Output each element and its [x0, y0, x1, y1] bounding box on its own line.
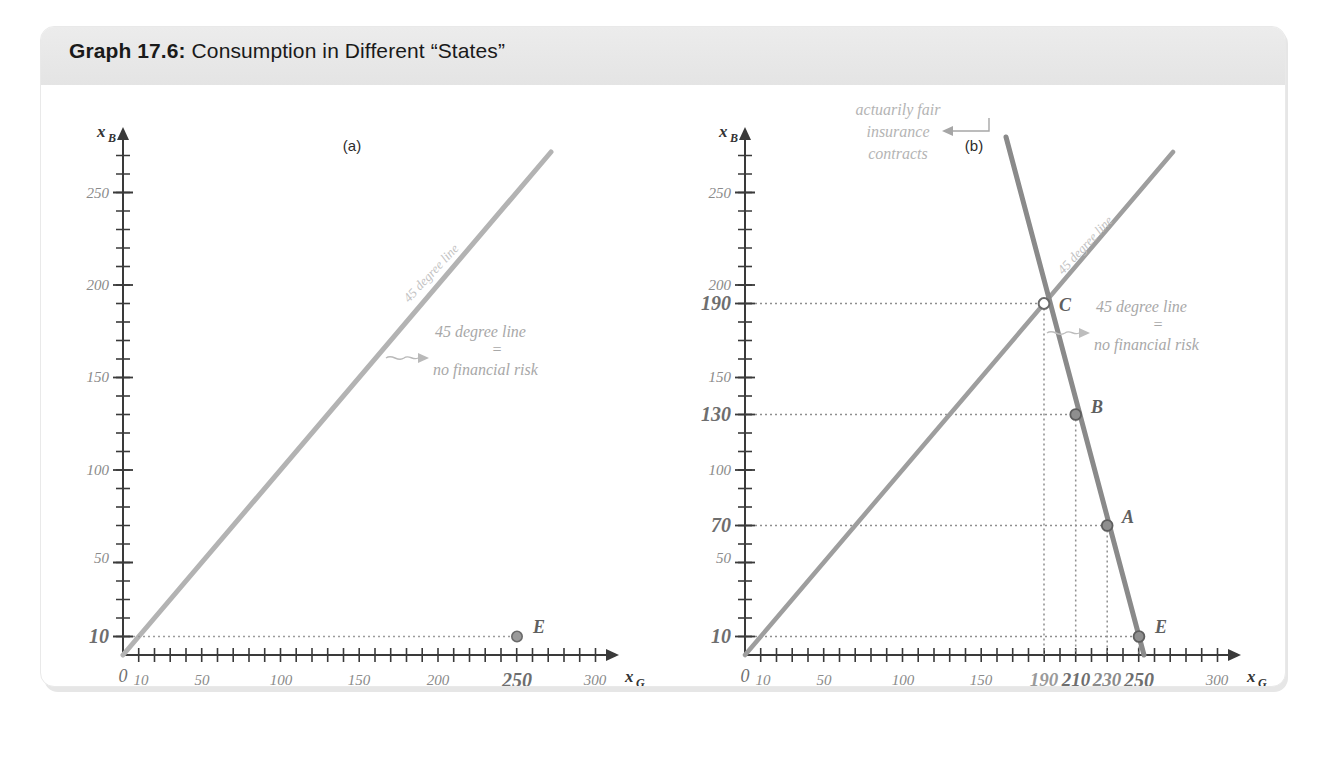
data-point-E-a: E — [512, 617, 545, 642]
y-axis-arrow — [739, 127, 751, 140]
axes-a — [117, 127, 619, 661]
annotation-arrow-b — [1047, 328, 1090, 338]
svg-text:190: 190 — [1030, 669, 1059, 687]
x-axis-arrow — [606, 649, 619, 661]
x-axis-arrow — [1228, 649, 1241, 661]
svg-text:150: 150 — [709, 369, 732, 385]
svg-text:A: A — [1121, 507, 1134, 527]
svg-text:200: 200 — [427, 672, 450, 687]
axes-b — [739, 127, 1241, 661]
y-axis-title-b: x B — [718, 122, 738, 145]
svg-text:130: 130 — [701, 403, 731, 425]
svg-text:10: 10 — [711, 625, 731, 647]
svg-text:210: 210 — [1061, 669, 1091, 687]
x-axis-title-b: x G — [1246, 667, 1267, 687]
svg-text:230: 230 — [1092, 669, 1122, 687]
svg-text:x: x — [624, 667, 634, 686]
panel-a: (a) — [41, 85, 663, 685]
svg-text:10: 10 — [756, 672, 772, 687]
svg-text:250: 250 — [709, 185, 732, 201]
svg-text:B: B — [107, 131, 116, 145]
svg-text:100: 100 — [892, 672, 915, 687]
panel-a-plot: 45 degree line 45 degree line = no finan… — [41, 85, 663, 685]
svg-text:0: 0 — [119, 666, 128, 686]
title-rest: Consumption in Different “States” — [192, 39, 505, 62]
svg-text:200: 200 — [87, 277, 110, 293]
anno-no-risk-b: no financial risk — [1094, 336, 1200, 354]
anno-equals-a: = — [492, 341, 503, 358]
svg-text:150: 150 — [348, 672, 371, 687]
svg-text:300: 300 — [1205, 672, 1229, 687]
svg-text:G: G — [1258, 676, 1267, 687]
x-tick-labels-a: 0 10 50 100 150 200 250 300 — [119, 666, 607, 687]
figure-card: Graph 17.6: Consumption in Different “St… — [40, 26, 1286, 687]
y-axis-title-a: x B — [96, 122, 116, 145]
svg-text:E: E — [1154, 617, 1167, 637]
y-tick-labels-a: 10 50 100 150 200 250 — [87, 185, 110, 647]
svg-text:G: G — [636, 676, 645, 687]
chart-b-svg: 45 degree line actuarily fair insurance … — [663, 85, 1285, 685]
svg-text:250: 250 — [501, 669, 532, 687]
annotation-arrow-a — [386, 353, 429, 363]
svg-text:100: 100 — [87, 462, 110, 478]
x-axis-title-a: x G — [624, 667, 645, 687]
rotated-45-degree-label-b: 45 degree line — [1054, 213, 1116, 277]
panel-b: (b) — [663, 85, 1285, 685]
svg-text:10: 10 — [89, 625, 109, 647]
chart-a-svg: 45 degree line 45 degree line = no finan… — [41, 85, 663, 685]
series-fair-insurance-line-b — [1006, 137, 1144, 655]
svg-text:200: 200 — [709, 277, 732, 293]
title-lead: Graph 17.6: — [69, 39, 186, 62]
svg-text:x: x — [96, 122, 106, 141]
anno-45-line-b: 45 degree line — [1096, 298, 1187, 316]
anno-45-line-a: 45 degree line — [435, 323, 526, 341]
svg-text:E: E — [532, 617, 545, 637]
svg-text:B: B — [729, 131, 738, 145]
anno-no-risk-a: no financial risk — [433, 361, 539, 379]
figure-root: Graph 17.6: Consumption in Different “St… — [0, 0, 1326, 781]
guides-b — [745, 304, 1139, 656]
svg-text:10: 10 — [134, 672, 150, 687]
anno-fair-2: insurance — [866, 123, 929, 140]
svg-text:B: B — [1090, 397, 1103, 417]
no-financial-risk-annotation-b: 45 degree line = no financial risk — [1094, 298, 1200, 354]
data-point-C-b: C — [1039, 295, 1072, 315]
anno-fair-3: contracts — [868, 145, 928, 162]
svg-text:50: 50 — [716, 550, 732, 566]
svg-text:300: 300 — [583, 672, 607, 687]
svg-text:190: 190 — [701, 292, 731, 314]
svg-text:150: 150 — [87, 369, 110, 385]
no-financial-risk-annotation-a: 45 degree line = no financial risk — [433, 323, 539, 379]
svg-text:250: 250 — [87, 185, 110, 201]
svg-text:50: 50 — [195, 672, 211, 687]
svg-text:100: 100 — [270, 672, 293, 687]
svg-text:0: 0 — [741, 666, 750, 686]
series-45-degree-line-a — [123, 152, 551, 655]
svg-text:100: 100 — [709, 462, 732, 478]
svg-text:x: x — [718, 122, 728, 141]
svg-text:x: x — [1246, 667, 1256, 686]
panel-b-plot: 45 degree line actuarily fair insurance … — [663, 85, 1285, 685]
svg-text:70: 70 — [711, 514, 731, 536]
svg-text:C: C — [1059, 295, 1072, 315]
svg-text:50: 50 — [94, 550, 110, 566]
y-tick-labels-b: 10 50 70 100 130 150 190 200 250 — [701, 185, 732, 647]
fair-insurance-annotation-b: actuarily fair insurance contracts — [856, 101, 989, 162]
svg-text:150: 150 — [970, 672, 993, 687]
y-axis-arrow — [117, 127, 129, 140]
svg-text:250: 250 — [1123, 669, 1154, 687]
x-tick-labels-b: 0 10 50 100 150 190 210 230 250 300 — [741, 666, 1229, 687]
title-band: Graph 17.6: Consumption in Different “St… — [41, 27, 1285, 85]
svg-text:50: 50 — [817, 672, 833, 687]
anno-fair-1: actuarily fair — [856, 101, 942, 119]
anno-equals-b: = — [1153, 316, 1164, 333]
page-title: Graph 17.6: Consumption in Different “St… — [69, 39, 505, 63]
